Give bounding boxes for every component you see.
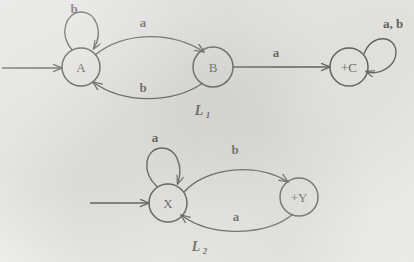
transition-label-Y-X: a bbox=[233, 209, 240, 224]
transition-A-B-a bbox=[95, 37, 204, 55]
state-label-A: A bbox=[76, 60, 86, 75]
caption-L2: L 2 bbox=[191, 239, 208, 256]
transition-X-X-a bbox=[147, 148, 180, 187]
automaton-L2: a b a X +Y L 2 bbox=[90, 130, 318, 256]
state-label-Y: +Y bbox=[291, 190, 308, 205]
state-X: X bbox=[149, 184, 187, 222]
state-label-X: X bbox=[163, 196, 173, 211]
caption-L1-letter: L bbox=[194, 103, 204, 118]
automata-figure: b a b a a, b A B bbox=[0, 0, 414, 262]
caption-L1: L 1 bbox=[194, 103, 211, 120]
transition-label-B-C: a bbox=[273, 45, 280, 60]
transition-label-X-X: a bbox=[152, 130, 159, 145]
state-label-C: +C bbox=[341, 60, 357, 75]
transition-label-X-Y: b bbox=[231, 142, 238, 157]
state-B: B bbox=[193, 47, 233, 87]
state-C: +C bbox=[330, 48, 368, 86]
automata-svg-canvas: b a b a a, b A B bbox=[0, 0, 414, 262]
transition-C-C-ab bbox=[364, 39, 396, 73]
transition-B-A-b bbox=[93, 82, 203, 99]
caption-L2-subscript: 2 bbox=[202, 246, 208, 256]
transition-X-Y-b bbox=[184, 170, 288, 192]
transition-label-B-A: b bbox=[139, 80, 146, 95]
caption-L1-subscript: 1 bbox=[206, 110, 211, 120]
transition-label-A-A: b bbox=[70, 1, 77, 16]
state-Y: +Y bbox=[280, 178, 318, 216]
transition-label-C-C: a, b bbox=[383, 16, 403, 31]
transition-label-A-B: a bbox=[140, 15, 147, 30]
state-A: A bbox=[62, 48, 100, 86]
state-label-B: B bbox=[209, 60, 218, 75]
automaton-L1: b a b a a, b A B bbox=[2, 1, 403, 120]
caption-L2-letter: L bbox=[191, 239, 201, 254]
transition-A-A-b bbox=[65, 12, 98, 51]
